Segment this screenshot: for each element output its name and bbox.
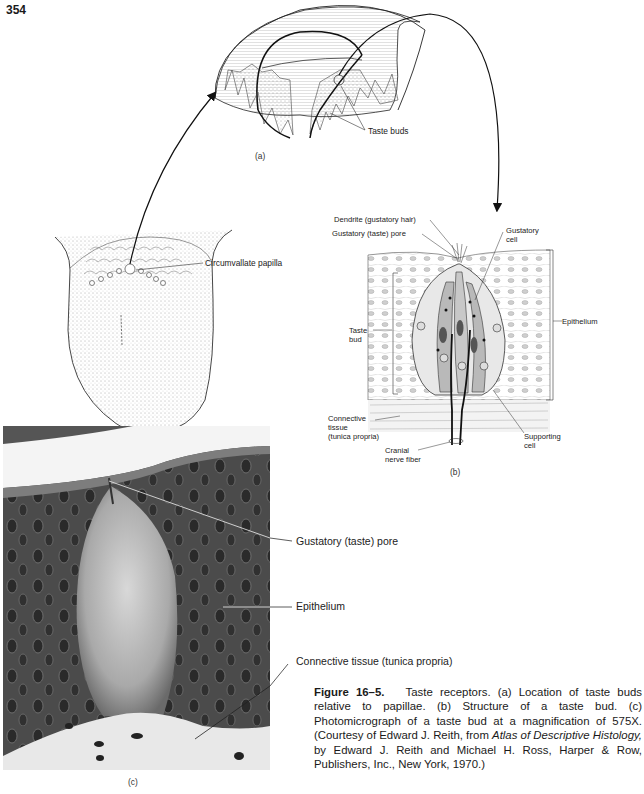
label-gustatory-pore-c: Gustatory (taste) pore	[296, 535, 398, 547]
caption-text-2: by Edward J. Reith and Michael H. Ross, …	[314, 744, 642, 770]
figure-label: Figure 16–5.	[314, 686, 384, 698]
panel-c-leader-lines	[0, 0, 644, 794]
figure-caption: Figure 16–5. Taste receptors. (a) Locati…	[314, 685, 642, 771]
caption-book-title: Atlas of Descriptive Histology,	[492, 729, 642, 741]
label-connective-tissue-c: Connective tissue (tunica propria)	[296, 655, 452, 667]
panel-c-letter: (c)	[128, 777, 138, 787]
label-epithelium-c: Epithelium	[296, 600, 345, 612]
